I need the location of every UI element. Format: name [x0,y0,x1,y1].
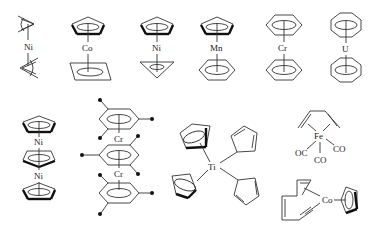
metal-label-co: Co [82,43,93,53]
co-label-right: CO [333,144,346,154]
metal-label-ni-1: Ni [34,137,43,147]
structure-triple-decker-nickel: Ni Ni [23,116,55,199]
metal-label-ni: Ni [24,42,33,52]
structure-cp-mn-benzene: Mn [199,17,235,80]
metal-label-ni: Ni [152,43,161,53]
structure-cp-co-cyclobutadiene: Co [70,17,111,80]
structure-butadiene-iron-tricarbonyl: Fe OC CO CO [295,111,346,165]
metal-label-co: Co [322,195,333,205]
co-label-bottom: CO [314,155,327,165]
metal-label-u: U [342,44,349,54]
metal-label-ti: Ti [208,162,216,172]
structure-uranocene: U [331,13,361,82]
structure-bis-allyl-nickel: Ni [18,16,38,78]
metal-label-cr-2: Cr [114,169,123,179]
structure-dibenzene-chromium: Cr [266,15,302,80]
metal-label-cr: Cr [278,43,287,53]
metal-label-fe: Fe [314,131,323,141]
metal-label-ni-2: Ni [34,171,43,181]
metal-label-cr-1: Cr [114,134,123,144]
structure-cp-ni-cyclopropenyl: Ni [140,17,174,78]
structure-tetracyclopentadienyl-titanium: Ti [172,124,259,205]
organometallic-structures-diagram: Ni Co Ni Mn [0,0,379,231]
metal-label-mn: Mn [210,43,223,53]
structure-triple-decker-mesitylene-chromium: Cr Cr [80,98,154,216]
co-label-left: OC [295,148,308,158]
structure-cp-cobalt-cyclooctadiene: Co [282,180,357,220]
